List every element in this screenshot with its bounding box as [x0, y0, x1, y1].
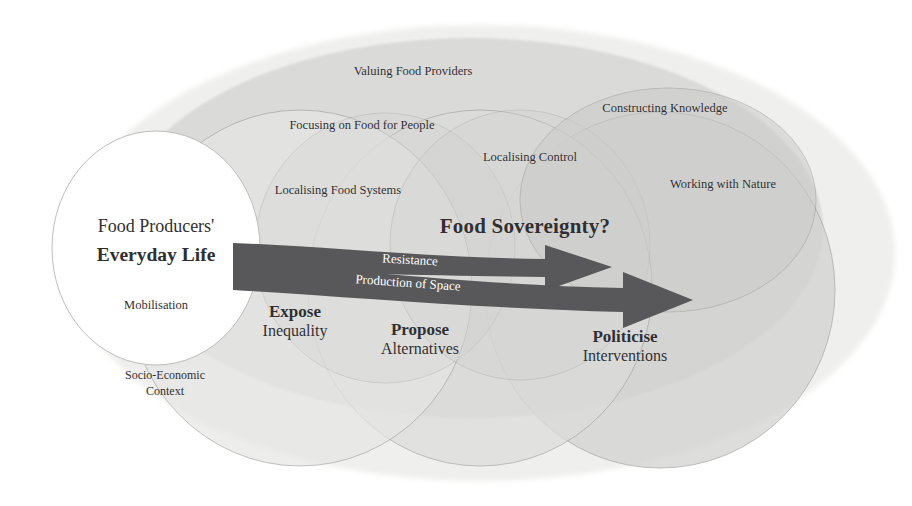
pillar-localising-control: Localising Control: [405, 150, 655, 165]
pillar-working-with-nature: Working with Nature: [598, 177, 848, 192]
action-politicise-verb: Politicise: [530, 327, 720, 347]
pillar-focusing-on-food-for-people: Focusing on Food for People: [237, 118, 487, 133]
pillar-localising-food-systems: Localising Food Systems: [213, 183, 463, 198]
socio-economic-context-line1: Socio-Economic: [125, 368, 205, 382]
action-politicise-object: Interventions: [530, 347, 720, 366]
core-line2: Everyday Life: [56, 243, 256, 266]
action-politicise: Politicise Interventions: [530, 327, 720, 366]
socio-economic-context-label: Socio-Economic Context: [85, 368, 245, 399]
action-propose: Propose Alternatives: [330, 320, 510, 359]
socio-economic-context-line2: Context: [146, 384, 184, 398]
action-propose-verb: Propose: [330, 320, 510, 340]
core-line1: Food Producers': [56, 216, 256, 237]
diagram-canvas: Food Producers' Everyday Life Mobilisati…: [0, 0, 912, 506]
pillar-valuing-food-providers: Valuing Food Providers: [288, 64, 538, 79]
pillar-constructing-knowledge: Constructing Knowledge: [540, 101, 790, 116]
action-propose-object: Alternatives: [330, 340, 510, 359]
food-sovereignty-title: Food Sovereignty?: [400, 214, 650, 239]
